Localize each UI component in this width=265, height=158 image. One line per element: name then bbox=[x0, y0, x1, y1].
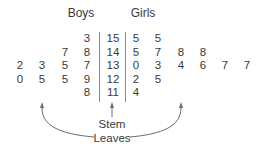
right-leaves-arrow-curve bbox=[130, 108, 181, 137]
arrows-graphic bbox=[0, 0, 265, 158]
left-arrowhead-icon bbox=[40, 102, 44, 108]
left-leaves-arrow-curve bbox=[42, 108, 94, 137]
stem-label: Stem bbox=[99, 118, 126, 130]
stem-arrowhead-icon bbox=[110, 102, 114, 108]
right-arrowhead-icon bbox=[179, 102, 183, 108]
leaves-label: Leaves bbox=[93, 132, 130, 144]
